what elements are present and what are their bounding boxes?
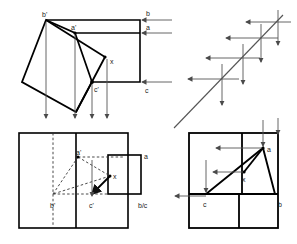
cross-arrow-group-3 <box>226 24 278 62</box>
diagram-canvas: b' a' x c' b a c <box>0 0 297 244</box>
label-c-prime-tl: c' <box>94 86 99 93</box>
cross-arrow-group-1 <box>188 64 239 105</box>
label-b-right: b <box>146 10 150 17</box>
panel-bottom-left: a' x b' c' a b/c <box>19 133 148 228</box>
top-view-triangle <box>206 148 275 194</box>
construction-dashed-lines <box>53 133 128 228</box>
cross-arrow-group-2 <box>206 44 260 84</box>
panel-bottom-right: a x c b <box>175 118 282 228</box>
label-a-bl: a <box>144 153 148 160</box>
label-a-prime-tl: a' <box>71 24 76 31</box>
label-b-prime-tl: b' <box>42 11 47 18</box>
label-c-br: c <box>203 201 207 208</box>
cross-arrow-group-4 <box>246 10 291 45</box>
label-x-tl: x <box>110 58 114 65</box>
br-left-arrows <box>175 148 262 196</box>
label-c-prime-bl: c' <box>89 202 94 209</box>
label-c-right: c <box>145 87 149 94</box>
label-x-bl: x <box>113 173 117 180</box>
bottom-left-outlines <box>19 133 141 228</box>
panel-top-right <box>174 10 291 128</box>
label-b-br: b <box>278 201 282 208</box>
label-bc-bl: b/c <box>138 202 148 209</box>
label-x-br: x <box>242 176 246 183</box>
panel-top-left: b' a' x c' b a c <box>22 10 172 118</box>
label-b-prime-bl: b' <box>50 202 55 209</box>
bottom-right-outlines <box>189 133 278 228</box>
projection-diagram: b' a' x c' b a c <box>0 0 297 244</box>
label-a-br: a <box>267 146 271 153</box>
diagonal-reference-line <box>174 15 283 128</box>
label-a-prime-bl: a' <box>76 149 81 156</box>
label-a-right: a <box>146 24 150 31</box>
